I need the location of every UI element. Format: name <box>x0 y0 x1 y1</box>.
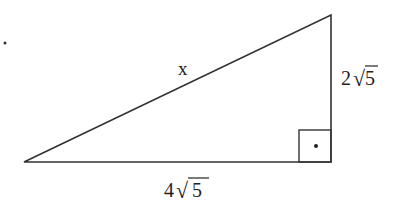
vertical-leg-coef: 2 <box>341 67 351 89</box>
sqrt-symbol: √ <box>176 178 189 203</box>
horizontal-leg-coef: 4 <box>164 179 174 201</box>
hypotenuse-label: x <box>178 58 188 79</box>
triangle-diagram: x 2 √ 5 4 √ 5 <box>0 0 396 216</box>
vertical-leg-radicand: 5 <box>365 67 375 89</box>
right-angle-dot <box>314 144 318 148</box>
vertical-leg-label: 2 √ 5 <box>341 66 378 91</box>
right-triangle <box>24 15 331 162</box>
horizontal-leg-radicand: 5 <box>192 179 202 201</box>
stray-dot <box>4 42 7 45</box>
horizontal-leg-label: 4 √ 5 <box>164 178 209 203</box>
